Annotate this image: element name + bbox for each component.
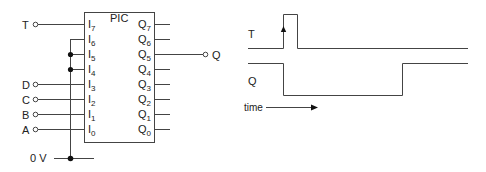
- svg-text:I1: I1: [88, 108, 96, 123]
- svg-text:I5: I5: [88, 48, 96, 63]
- signal-label-c: C: [22, 94, 30, 106]
- diagram-canvas: PIC I7 I6 I5 I4 I3 I2 I1 I0 Q7 Q6 Q5 Q4 …: [0, 0, 486, 172]
- pic-circuit-diagram: PIC I7 I6 I5 I4 I3 I2 I1 I0 Q7 Q6 Q5 Q4 …: [0, 0, 486, 172]
- junction-dot-ground: [68, 156, 74, 162]
- svg-text:I2: I2: [88, 93, 96, 108]
- waveform-q: [248, 64, 468, 96]
- time-arrow-head-icon: [311, 105, 318, 111]
- waveform-t: [248, 15, 468, 49]
- signal-label-q-output: Q: [212, 49, 221, 61]
- svg-text:Q3: Q3: [138, 78, 152, 93]
- junction-dot-i5: [68, 52, 73, 57]
- svg-text:Q7: Q7: [138, 18, 152, 33]
- svg-text:I6: I6: [88, 33, 96, 48]
- terminal-c: [33, 97, 38, 102]
- signal-label-t: T: [22, 19, 29, 31]
- svg-text:Q2: Q2: [138, 93, 152, 108]
- svg-text:Q6: Q6: [138, 33, 152, 48]
- signal-label-b: B: [22, 109, 29, 121]
- ground-label: 0 V: [30, 152, 47, 164]
- svg-text:Q1: Q1: [138, 108, 152, 123]
- terminal-q: [203, 52, 208, 57]
- chip-label: PIC: [110, 12, 128, 24]
- timing-label-t: T: [248, 28, 255, 40]
- signal-label-d: D: [22, 79, 30, 91]
- terminal-a: [33, 127, 38, 132]
- svg-text:Q4: Q4: [138, 63, 152, 78]
- terminal-t: [33, 22, 38, 27]
- svg-text:I3: I3: [88, 78, 96, 93]
- svg-text:I4: I4: [88, 63, 96, 78]
- timing-label-q: Q: [248, 75, 257, 87]
- svg-text:I7: I7: [88, 18, 96, 33]
- terminal-d: [33, 82, 38, 87]
- junction-dot-i4: [68, 67, 73, 72]
- svg-text:I0: I0: [88, 123, 96, 138]
- signal-label-a: A: [22, 124, 30, 136]
- time-axis-label: time: [244, 102, 263, 113]
- svg-text:Q5: Q5: [138, 48, 152, 63]
- rising-edge-arrow-icon: [281, 26, 286, 32]
- terminal-b: [33, 112, 38, 117]
- svg-text:Q0: Q0: [138, 123, 152, 138]
